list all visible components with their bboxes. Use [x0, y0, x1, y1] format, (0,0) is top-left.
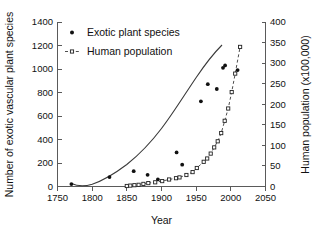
- y-tick-label: 1400: [32, 16, 53, 27]
- data-point: [236, 68, 240, 72]
- y2-tick-label: 0: [270, 181, 275, 192]
- data-point: [180, 163, 184, 167]
- data-point: [175, 151, 179, 155]
- legend-label: Human population: [87, 45, 172, 57]
- y2-tick-label: 300: [270, 57, 286, 68]
- y-tick-label: 1200: [32, 40, 53, 51]
- data-point: [223, 64, 227, 68]
- data-point: [230, 91, 233, 94]
- y-axis-title: Number of exotic vascular plant species: [3, 12, 15, 198]
- data-point: [223, 119, 226, 122]
- x-tick-label: 1800: [82, 192, 103, 203]
- x-tick-label: 1950: [186, 192, 207, 203]
- y-tick-label: 0: [48, 181, 53, 192]
- data-point: [137, 183, 140, 186]
- data-point: [239, 45, 242, 48]
- data-point: [161, 180, 164, 183]
- x-tick-label: 1850: [116, 192, 137, 203]
- data-point: [202, 160, 205, 163]
- y2-tick-label: 350: [270, 37, 286, 48]
- data-point: [209, 152, 212, 155]
- x-tick-label: 2000: [220, 192, 241, 203]
- data-point: [220, 132, 223, 135]
- data-point: [147, 182, 150, 185]
- legend-item-exotic-plant-species: Exotic plant species: [70, 26, 180, 38]
- y-tick-label: 600: [37, 110, 53, 121]
- filled-circle-icon: [70, 31, 74, 35]
- data-point: [133, 184, 136, 187]
- y-tick-label: 400: [37, 134, 53, 145]
- x-tick-label: 1750: [47, 192, 68, 203]
- open-square-icon: [70, 50, 73, 53]
- data-point: [185, 173, 188, 176]
- data-point: [199, 99, 203, 103]
- x-axis-title: Year: [151, 214, 173, 226]
- data-point: [215, 87, 219, 91]
- data-point: [174, 177, 177, 180]
- y-tick-label: 800: [37, 87, 53, 98]
- y2-tick-label: 150: [270, 119, 286, 130]
- data-point: [168, 178, 171, 181]
- data-point: [213, 146, 216, 149]
- y2-tick-label: 100: [270, 140, 286, 151]
- chart-container: 0 200 400 600 800 1000: [0, 0, 322, 238]
- y2-tick-label: 400: [270, 16, 286, 27]
- data-point: [206, 82, 210, 86]
- data-point: [70, 182, 74, 186]
- data-point: [108, 175, 112, 179]
- data-point: [129, 184, 132, 187]
- data-point: [206, 157, 209, 160]
- data-point: [227, 107, 230, 110]
- x-tick-label: 1900: [151, 192, 172, 203]
- data-point: [195, 166, 198, 169]
- x-tick-label: 2050: [255, 192, 276, 203]
- y2-tick-label: 50: [270, 160, 281, 171]
- chart-figure: 0 200 400 600 800 1000: [0, 0, 322, 238]
- data-point: [154, 181, 157, 184]
- y-tick-label: 200: [37, 157, 53, 168]
- data-point: [234, 72, 237, 75]
- data-point: [125, 184, 128, 187]
- data-point: [132, 169, 136, 173]
- data-point: [178, 176, 181, 179]
- data-point: [191, 171, 194, 174]
- y2-tick-label: 250: [270, 78, 286, 89]
- y2-axis-title: Human population (x100,000): [299, 35, 311, 173]
- legend-label: Exotic plant species: [87, 26, 180, 38]
- y-tick-label: 1000: [32, 63, 53, 74]
- data-point: [216, 140, 219, 143]
- data-point: [146, 173, 150, 177]
- data-point: [142, 182, 145, 185]
- y2-tick-label: 200: [270, 99, 286, 110]
